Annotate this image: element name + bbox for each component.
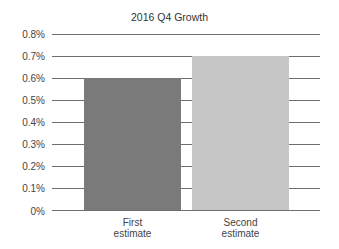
x-tick-label: Firstestimate: [84, 217, 181, 239]
bar: [192, 56, 289, 210]
bar: [84, 78, 181, 210]
y-tick-label: 0.3%: [0, 139, 45, 150]
baseline: [52, 210, 320, 211]
chart-title: 2016 Q4 Growth: [0, 11, 339, 23]
y-tick-label: 0.1%: [0, 183, 45, 194]
y-tick-label: 0.5%: [0, 95, 45, 106]
y-tick-label: 0.8%: [0, 29, 45, 40]
y-tick-label: 0.2%: [0, 161, 45, 172]
y-tick-label: 0%: [0, 205, 45, 216]
gridline: [52, 34, 320, 35]
y-tick-label: 0.4%: [0, 117, 45, 128]
y-tick-label: 0.7%: [0, 51, 45, 62]
y-tick-label: 0.6%: [0, 73, 45, 84]
x-tick-label: Secondestimate: [192, 217, 289, 239]
